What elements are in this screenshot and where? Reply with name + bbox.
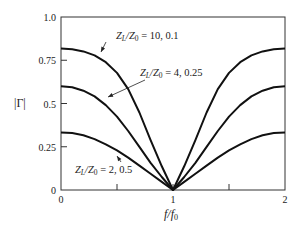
arrowhead-icon [101, 47, 105, 52]
y-axis-ticks: 00.250.50.751.0 [39, 12, 68, 196]
y-axis-label: |Γ| [14, 96, 26, 110]
curve-label: ZL/Z0 = 2, 0.5 [75, 164, 132, 177]
curve-label: ZL/Z0 = 10, 0.1 [116, 30, 179, 43]
arrowhead-icon [117, 156, 121, 161]
y-tick-label: 0.5 [44, 99, 57, 110]
x-tick-label: 1 [171, 194, 176, 205]
plot-frame [61, 17, 285, 190]
curve-series-2 [61, 132, 285, 190]
reflection-coefficient-chart: 00.250.50.751.0 012 ZL/Z0 = 10, 0.1ZL/Z0… [0, 0, 298, 233]
y-tick-label: 0.25 [39, 142, 57, 153]
x-axis-label: f/f0 [164, 207, 178, 222]
annotation-leader-line [108, 80, 145, 97]
x-tick-label: 0 [59, 194, 64, 205]
x-axis-ticks: 012 [59, 184, 288, 205]
y-tick-label: 0.75 [39, 55, 57, 66]
arrowhead-icon [108, 93, 113, 97]
y-tick-label: 0 [51, 185, 56, 196]
x-axis-label-sub: 0 [174, 213, 178, 222]
y-tick-label: 1.0 [44, 12, 57, 23]
curve-annotations: ZL/Z0 = 10, 0.1ZL/Z0 = 4, 0.25ZL/Z0 = 2,… [75, 30, 203, 177]
x-tick-label: 2 [283, 194, 288, 205]
curve-label: ZL/Z0 = 4, 0.25 [140, 67, 203, 80]
